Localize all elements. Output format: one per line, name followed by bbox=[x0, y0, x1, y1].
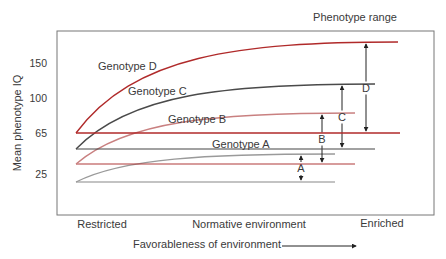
series-label: Genotype D bbox=[98, 60, 157, 72]
x-tick-label: Restricted bbox=[77, 218, 127, 230]
y-tick-label: 150 bbox=[29, 57, 47, 69]
y-tick-label: 25 bbox=[35, 168, 47, 180]
chart-title: Phenotype range bbox=[313, 11, 397, 23]
range-label: C bbox=[338, 111, 346, 123]
series-label: Genotype A bbox=[212, 138, 270, 150]
y-axis-label: Mean phenotype IQ bbox=[11, 74, 23, 171]
curve-D bbox=[76, 42, 398, 133]
range-label: D bbox=[362, 82, 370, 94]
reaction-range-diagram: Phenotype range Mean phenotype IQ 256510… bbox=[0, 0, 446, 259]
y-tick-label: 65 bbox=[35, 127, 47, 139]
x-tick-label: Normative environment bbox=[192, 218, 306, 230]
curve-A bbox=[76, 154, 335, 182]
x-tick-label: Enriched bbox=[360, 217, 403, 229]
plot-frame bbox=[57, 31, 434, 215]
y-tick-label: 100 bbox=[29, 92, 47, 104]
series-label: Genotype C bbox=[128, 85, 187, 97]
series-label: Genotype B bbox=[168, 113, 226, 125]
range-label: B bbox=[318, 133, 325, 145]
x-axis-label: Favorableness of environment bbox=[133, 238, 281, 250]
